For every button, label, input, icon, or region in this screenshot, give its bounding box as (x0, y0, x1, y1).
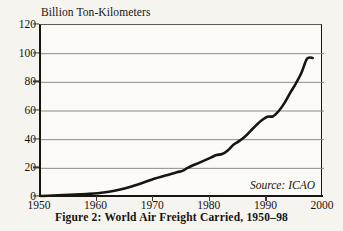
y-axis-tick-group: 020406080100120 (0, 0, 36, 231)
y-axis-tick-label: 20 (2, 161, 36, 173)
x-axis-tick-mark (265, 196, 266, 201)
gridlines (41, 54, 324, 197)
data-series-line (41, 57, 313, 196)
x-axis-tick-mark (96, 196, 97, 201)
chart-canvas (41, 25, 324, 197)
y-axis-title: Billion Ton-Kilometers (41, 6, 150, 18)
x-axis-tick-mark (209, 196, 210, 201)
y-axis-tick-label: 80 (2, 75, 36, 87)
figure-container: Billion Ton-Kilometers 020406080100120 S… (0, 0, 343, 231)
figure-caption: Figure 2: World Air Freight Carried, 195… (0, 211, 343, 223)
x-axis-tick-label: 2000 (311, 199, 334, 211)
x-axis-tick-label: 1950 (28, 199, 51, 211)
y-axis-tick-label: 100 (2, 47, 36, 59)
y-axis-tick-label: 60 (2, 104, 36, 116)
y-axis-tick-label: 40 (2, 133, 36, 145)
x-axis-tick-mark (152, 196, 153, 201)
x-axis-line (39, 195, 323, 197)
source-annotation: Source: ICAO (250, 179, 315, 191)
plot-area: Source: ICAO (39, 24, 322, 196)
y-axis-tick-label: 120 (2, 18, 36, 30)
